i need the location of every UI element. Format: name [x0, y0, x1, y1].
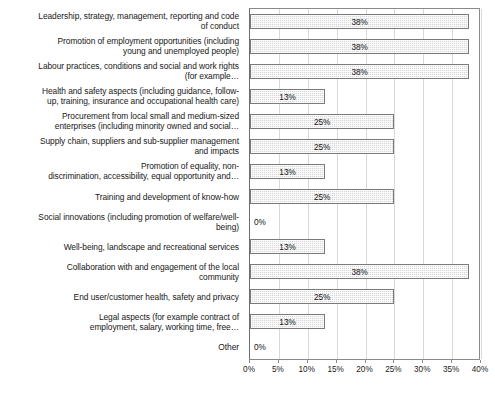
bar-value-label: 25%	[251, 117, 393, 126]
x-tick-label: 10%	[299, 365, 315, 374]
bar-row: 25%	[250, 184, 479, 209]
bar: 13%	[250, 314, 325, 329]
x-tick-label: 35%	[443, 365, 459, 374]
category-label-line: Procurement from local small and medium-…	[55, 111, 239, 121]
bar-value-label: 38%	[251, 267, 468, 276]
bar-row: 13%	[250, 84, 479, 109]
bar-value-label: 0%	[254, 342, 266, 351]
category-label-line: End user/customer health, safety and pri…	[74, 292, 239, 302]
x-tick-label: 30%	[414, 365, 430, 374]
bar-row: 38%	[250, 9, 479, 34]
bar-row: 13%	[250, 234, 479, 259]
x-tick-label: 0%	[243, 365, 255, 374]
x-tick-label: 20%	[356, 365, 372, 374]
category-label-line: Promotion of equality, non-	[48, 161, 239, 171]
bar-row: 25%	[250, 284, 479, 309]
bar-value-label: 0%	[254, 217, 266, 226]
bar-row: 13%	[250, 309, 479, 334]
x-tick-mark	[336, 360, 337, 363]
bar-row: 38%	[250, 259, 479, 284]
bar: 25%	[250, 114, 394, 129]
bar-row: 25%	[250, 109, 479, 134]
category-label: Well-being, landscape and recreational s…	[0, 234, 244, 259]
x-tick-mark	[307, 360, 308, 363]
bar-row: 25%	[250, 134, 479, 159]
category-label: Supply chain, suppliers and sub-supplier…	[0, 134, 244, 159]
bar: 38%	[250, 64, 469, 79]
x-tick-mark	[393, 360, 394, 363]
x-tick-label: 40%	[472, 365, 488, 374]
category-label-line: and impacts	[40, 146, 239, 156]
category-axis-labels: Leadership, strategy, management, report…	[0, 8, 244, 360]
category-label-line: Training and development of know-how	[95, 192, 239, 202]
category-label-line: Social innovations (including promotion …	[38, 212, 239, 222]
bar-value-label: 25%	[251, 142, 393, 151]
category-label-line: being)	[38, 222, 239, 232]
category-label: Training and development of know-how	[0, 184, 244, 209]
bar-value-label: 13%	[251, 92, 324, 101]
category-label: Legal aspects (for example contract ofem…	[0, 310, 244, 335]
x-tick-mark	[480, 360, 481, 363]
category-label-line: Health and safety aspects (including gui…	[42, 86, 239, 96]
category-label-line: Labour practices, conditions and social …	[38, 61, 239, 71]
x-tick-mark	[365, 360, 366, 363]
category-label: Promotion of equality, non-discriminatio…	[0, 159, 244, 184]
bar-row: 0%	[250, 334, 479, 359]
bar: 38%	[250, 14, 469, 29]
bar: 38%	[250, 264, 469, 279]
category-label: Procurement from local small and medium-…	[0, 109, 244, 134]
gridline	[481, 9, 482, 359]
x-tick-mark	[249, 360, 250, 363]
category-label-line: Well-being, landscape and recreational s…	[64, 242, 239, 252]
bar-value-label: 25%	[251, 292, 393, 301]
x-tick-mark	[422, 360, 423, 363]
category-label-line: Supply chain, suppliers and sub-supplier…	[40, 136, 239, 146]
x-tick-label: 15%	[327, 365, 343, 374]
category-label: Promotion of employment opportunities (i…	[0, 33, 244, 58]
category-label-line: of conduct	[38, 21, 239, 31]
bar-row: 13%	[250, 159, 479, 184]
category-label: Social innovations (including promotion …	[0, 209, 244, 234]
bar: 13%	[250, 164, 325, 179]
category-label-line: community	[67, 272, 239, 282]
category-label-line: Promotion of employment opportunities (i…	[58, 36, 239, 46]
x-tick-label: 5%	[272, 365, 284, 374]
bar-value-label: 25%	[251, 192, 393, 201]
bar-row: 38%	[250, 34, 479, 59]
category-label-line: employment, salary, working time, free…	[90, 322, 239, 332]
plot-area: 38%38%38%13%25%25%13%25%0%13%38%25%13%0%	[249, 8, 480, 360]
bar: 25%	[250, 139, 394, 154]
category-label-line: Legal aspects (for example contract of	[90, 312, 239, 322]
bar-row: 38%	[250, 59, 479, 84]
bar: 25%	[250, 189, 394, 204]
category-label-line: discrimination, accessibility, equal opp…	[48, 171, 239, 181]
bar-value-label: 38%	[251, 42, 468, 51]
x-tick-label: 25%	[385, 365, 401, 374]
bar-series: 38%38%38%13%25%25%13%25%0%13%38%25%13%0%	[250, 9, 479, 359]
x-tick-mark	[451, 360, 452, 363]
horizontal-bar-chart: Leadership, strategy, management, report…	[0, 0, 495, 395]
bar-value-label: 13%	[251, 242, 324, 251]
category-label: Collaboration with and engagement of the…	[0, 259, 244, 284]
bar-value-label: 38%	[251, 67, 468, 76]
category-label: Health and safety aspects (including gui…	[0, 83, 244, 108]
bar: 13%	[250, 239, 325, 254]
bar: 25%	[250, 289, 394, 304]
category-label-line: Leadership, strategy, management, report…	[38, 11, 239, 21]
category-label: Leadership, strategy, management, report…	[0, 8, 244, 33]
category-label-line: Other	[218, 342, 239, 352]
category-label-line: Collaboration with and engagement of the…	[67, 262, 239, 272]
bar-value-label: 13%	[251, 317, 324, 326]
category-label-line: young and unemployed people)	[58, 46, 239, 56]
category-label: Labour practices, conditions and social …	[0, 58, 244, 83]
category-label-line: (for example…	[38, 71, 239, 81]
x-tick-mark	[278, 360, 279, 363]
bar: 13%	[250, 89, 325, 104]
category-label: End user/customer health, safety and pri…	[0, 285, 244, 310]
bar-value-label: 38%	[251, 17, 468, 26]
bar: 38%	[250, 39, 469, 54]
bar-row: 0%	[250, 209, 479, 234]
x-axis: 0%5%10%15%20%25%30%35%40%	[249, 360, 480, 376]
bar-value-label: 13%	[251, 167, 324, 176]
category-label: Other	[0, 335, 244, 360]
